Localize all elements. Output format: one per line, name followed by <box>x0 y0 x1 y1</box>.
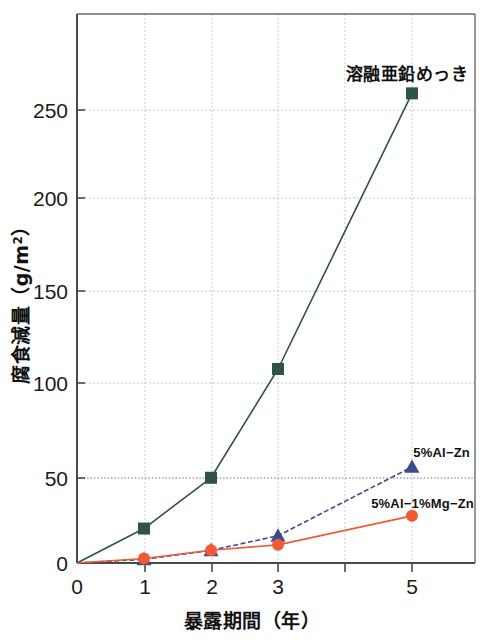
marker-circle <box>138 552 150 564</box>
x-tick-label-3: 3 <box>272 575 284 598</box>
x-tick-label-1: 1 <box>139 575 151 598</box>
y-axis-title-unit-suffix: ） <box>10 216 32 236</box>
x-axis-title: 暴露期間（年） <box>184 610 321 632</box>
y-axis-title-unit-exp: 2 <box>11 236 25 245</box>
x-axis-ticks <box>145 563 412 572</box>
marker-square <box>272 363 284 375</box>
marker-square <box>205 472 217 484</box>
series-label-hot-dip-galvanized: 溶融亜鉛めっき <box>346 64 469 84</box>
x-tick-label-2: 2 <box>206 575 218 598</box>
marker-circle <box>272 539 284 551</box>
series-label-5al-zn: 5%Al−Zn <box>413 445 470 460</box>
y-axis-title-unit-prefix: （g/m <box>10 245 32 306</box>
y-tick-label-100: 100 <box>33 372 68 395</box>
y-tick-label-250: 250 <box>33 99 68 122</box>
svg-text:腐食減量（g/m2）: 腐食減量（g/m2） <box>10 216 32 384</box>
y-tick-label-0: 0 <box>56 552 68 575</box>
marker-square <box>406 87 418 99</box>
marker-circle <box>205 544 217 556</box>
x-tick-label-5: 5 <box>406 575 418 598</box>
corrosion-loss-line-chart: 250 200 150 100 50 0 0 1 2 3 5 溶融亜鉛めっき 5… <box>0 0 489 643</box>
y-axis-title-main: 腐食減量 <box>10 306 32 384</box>
y-axis-title: 腐食減量（g/m2） <box>10 216 32 384</box>
x-tick-label-0: 0 <box>71 575 83 598</box>
series-label-5al-1mg-zn: 5%Al−1%Mg−Zn <box>371 496 474 511</box>
y-tick-label-50: 50 <box>45 467 68 490</box>
marker-circle <box>406 510 418 522</box>
marker-square <box>138 523 150 535</box>
chart-page: 250 200 150 100 50 0 0 1 2 3 5 溶融亜鉛めっき 5… <box>0 0 489 643</box>
y-tick-label-200: 200 <box>33 187 68 210</box>
y-tick-label-150: 150 <box>33 280 68 303</box>
